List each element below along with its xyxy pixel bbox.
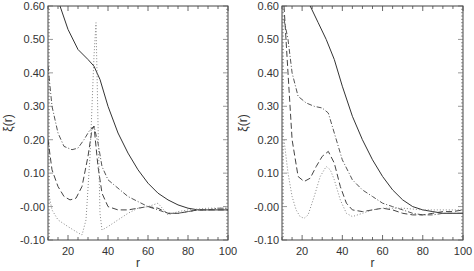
right-plot-frame	[282, 6, 463, 240]
y-tick-label: 0.60	[258, 0, 279, 12]
series-solid	[310, 6, 463, 213]
right-x-tick-labels: 20406080100	[296, 245, 472, 257]
y-tick-label: 0.50	[258, 33, 279, 45]
y-tick-label: 0.50	[24, 33, 45, 45]
y-tick-label: 0.60	[24, 0, 45, 12]
series-dash-dot	[284, 19, 463, 215]
x-tick-label: 60	[376, 245, 388, 257]
right-panel: -0.10-0.000.100.200.300.400.500.60 20406…	[236, 0, 472, 270]
x-tick-label: 60	[142, 245, 154, 257]
left-x-tick-labels: 20406080100	[62, 245, 237, 257]
y-tick-label: 0.10	[258, 167, 279, 179]
right-y-tick-labels: -0.10-0.000.100.200.300.400.500.60	[254, 0, 279, 246]
series-dotted	[48, 23, 228, 235]
y-tick-label: 0.30	[24, 100, 45, 112]
y-tick-label: 0.40	[258, 67, 279, 79]
y-tick-label: 0.30	[258, 100, 279, 112]
left-y-tick-labels: -0.10-0.000.100.200.300.400.500.60	[20, 0, 45, 246]
left-plot-frame	[48, 6, 228, 240]
left-ticks	[48, 6, 228, 240]
y-tick-label: 0.10	[24, 167, 45, 179]
right-y-axis-label: ξ(r)	[236, 114, 250, 131]
y-tick-label: -0.10	[254, 234, 279, 246]
x-tick-label: 20	[62, 245, 74, 257]
x-tick-label: 20	[296, 245, 308, 257]
left-series	[48, 6, 228, 235]
series-solid	[60, 6, 228, 210]
figure: -0.10-0.000.100.200.300.400.500.60 20406…	[0, 0, 474, 271]
left-panel: -0.10-0.000.100.200.300.400.500.60 20406…	[1, 0, 237, 270]
series-dotted	[284, 140, 463, 219]
y-tick-label: -0.00	[254, 201, 279, 213]
x-tick-label: 40	[336, 245, 348, 257]
series-dashed	[284, 6, 463, 215]
x-tick-label: 100	[454, 245, 472, 257]
x-tick-label: 100	[219, 245, 237, 257]
y-tick-label: 0.20	[258, 134, 279, 146]
x-tick-label: 40	[102, 245, 114, 257]
y-tick-label: 0.40	[24, 67, 45, 79]
y-tick-label: -0.10	[20, 234, 45, 246]
y-tick-label: 0.20	[24, 134, 45, 146]
right-ticks	[282, 6, 463, 240]
x-tick-label: 80	[417, 245, 429, 257]
right-x-axis-label: r	[371, 256, 375, 270]
series-dash-dot	[48, 66, 228, 213]
y-tick-label: -0.00	[20, 201, 45, 213]
x-tick-label: 80	[182, 245, 194, 257]
left-x-axis-label: r	[136, 256, 140, 270]
right-series	[284, 6, 463, 218]
left-y-axis-label: ξ(r)	[1, 114, 15, 131]
